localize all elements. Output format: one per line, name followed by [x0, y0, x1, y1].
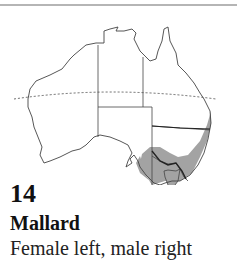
top-divider	[0, 4, 237, 6]
tropic-of-capricorn	[14, 92, 216, 99]
entry-number: 14	[10, 180, 36, 208]
caption: Female left, male right	[10, 236, 192, 260]
species-name: Mallard	[10, 212, 80, 234]
distribution-map	[0, 15, 237, 185]
